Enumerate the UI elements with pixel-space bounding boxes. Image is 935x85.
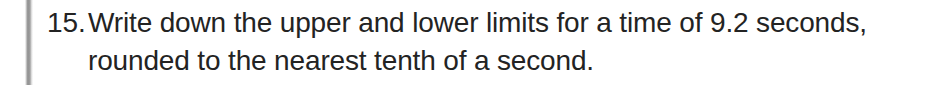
document-page: 15. Write down the upper and lower limit…: [0, 0, 935, 85]
question-number: 15.: [47, 0, 88, 42]
question-item-15: 15. Write down the upper and lower limit…: [47, 0, 927, 85]
question-text-line-2: rounded to the nearest tenth of a second…: [88, 42, 927, 80]
question-text-line-1: Write down the upper and lower limits fo…: [88, 4, 927, 42]
margin-rule-icon: [25, 0, 33, 85]
question-text: Write down the upper and lower limits fo…: [88, 0, 927, 80]
